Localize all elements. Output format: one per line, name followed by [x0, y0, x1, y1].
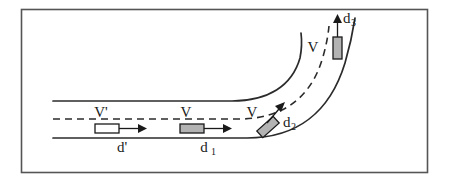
- vehicle-2-gray: [180, 124, 204, 133]
- label-d-one-base: d: [200, 139, 208, 155]
- label-d-one-sub: 1: [211, 146, 216, 157]
- label-v-curve-upper: V: [308, 39, 319, 55]
- label-v-prime: V': [94, 104, 108, 120]
- label-v-curve-lower: V: [247, 104, 258, 120]
- label-d-three-sub: 3: [351, 17, 356, 28]
- label-d-prime: d': [117, 139, 128, 155]
- road-curve-diagram: V' V V V d' d 1 d 2 d 3: [0, 0, 449, 181]
- figure-background: [0, 0, 449, 181]
- vehicle-4-vertical-gray: [333, 37, 342, 59]
- figure-container: V' V V V d' d 1 d 2 d 3: [0, 0, 449, 181]
- label-d-two-sub: 2: [291, 121, 296, 132]
- label-d-two-base: d: [283, 114, 291, 130]
- vehicle-1-white: [95, 124, 119, 133]
- label-v-second: V: [181, 104, 192, 120]
- label-d-three-base: d: [343, 10, 351, 26]
